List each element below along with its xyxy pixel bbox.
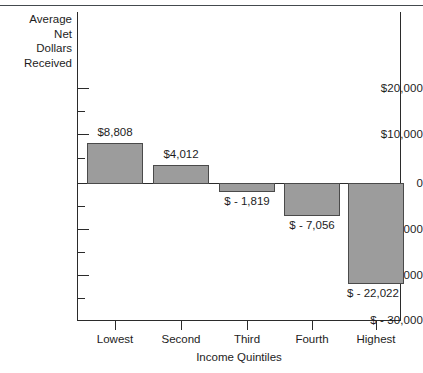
y-axis-title-line-3: Dollars — [0, 41, 72, 56]
bar-label-fourth: $ - 7,056 — [269, 219, 355, 231]
y-axis-title-line-1: Average — [0, 12, 72, 27]
x-tick — [376, 321, 377, 330]
y-tick-label-neg30000: $ - 30,000 — [351, 314, 423, 326]
y-tick-major — [78, 229, 89, 230]
chart-figure: Average Net Dollars Received $20,000 $10… — [0, 0, 423, 373]
y-tick-minor — [78, 158, 85, 159]
y-tick-minor — [78, 252, 85, 253]
y-axis-title: Average Net Dollars Received — [0, 12, 72, 70]
y-axis-title-line-2: Net — [0, 27, 72, 42]
bar-third — [219, 183, 275, 192]
x-axis-title: Income Quintiles — [77, 351, 401, 363]
y-tick-minor — [78, 206, 85, 207]
bar-fourth — [284, 183, 340, 216]
y-tick-minor — [78, 111, 85, 112]
bar-second — [153, 165, 209, 184]
top-divider-rule — [0, 5, 423, 6]
x-tick — [312, 321, 313, 330]
bar-lowest — [87, 143, 143, 184]
y-axis-title-line-4: Received — [0, 56, 72, 71]
bar-highest — [348, 183, 404, 284]
y-tick-major — [78, 88, 89, 89]
y-tick-label-20000: $20,000 — [351, 82, 423, 94]
y-tick-label-10000: $10,000 — [351, 128, 423, 140]
bar-label-lowest: $8,808 — [72, 126, 158, 138]
x-tick-label-highest: Highest — [333, 333, 419, 345]
x-tick — [247, 321, 248, 330]
y-tick-minor — [78, 298, 85, 299]
bar-label-highest: $ - 22,022 — [330, 287, 416, 299]
bar-label-second: $4,012 — [138, 148, 224, 160]
bar-label-third: $ - 1,819 — [204, 195, 290, 207]
y-tick-major — [78, 275, 89, 276]
x-tick — [115, 321, 116, 330]
x-tick — [181, 321, 182, 330]
